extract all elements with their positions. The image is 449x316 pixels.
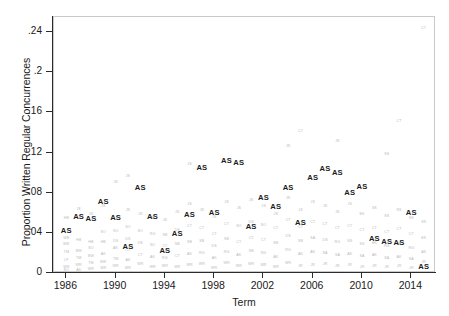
data-point-label: AS	[357, 183, 368, 191]
data-point-label: AK	[273, 256, 278, 260]
y-tick-mark	[46, 111, 52, 112]
data-point-label: AS	[394, 239, 405, 247]
y-tick-label: .12	[4, 147, 42, 157]
data-point-label: WR	[88, 268, 94, 272]
data-point-label: SB	[273, 242, 278, 246]
data-point-label: WR	[285, 262, 291, 266]
data-point-label: JS	[138, 213, 142, 217]
data-point-label: JR	[397, 265, 402, 269]
data-point-label: AK	[125, 259, 130, 263]
data-point-label: AK	[101, 253, 106, 257]
y-tick-mark	[46, 232, 52, 233]
x-tick-label: 2002	[237, 280, 287, 291]
data-point-label: JS	[113, 181, 117, 185]
data-point-label: CT	[286, 219, 291, 223]
x-tick-mark	[312, 273, 313, 278]
data-point-label: JS	[126, 209, 130, 213]
data-point-label: SB	[224, 238, 229, 242]
data-point-label: JS	[335, 141, 339, 145]
data-point-label: WB	[63, 237, 69, 241]
data-point-label: CT	[273, 227, 278, 231]
data-point-label: CT	[347, 225, 352, 229]
y-tick-label: 0	[4, 267, 42, 277]
data-point-label: BW	[88, 255, 94, 259]
data-point-label: JS	[286, 197, 290, 201]
data-point-label: CT	[212, 233, 217, 237]
data-point-label: SS	[372, 207, 377, 211]
data-point-label: AK	[150, 256, 155, 260]
data-point-label: CT	[397, 228, 402, 232]
data-point-label: WR	[100, 267, 106, 271]
data-point-label: CT	[310, 221, 315, 225]
y-tick-mark	[46, 152, 52, 153]
data-point-label: CT	[323, 223, 328, 227]
data-point-label: SA	[360, 255, 365, 259]
data-point-label: AS	[344, 189, 355, 197]
x-tick-mark	[164, 273, 165, 278]
data-point-label: AS	[122, 243, 133, 251]
data-point-label: CT	[175, 255, 180, 259]
data-point-label: AS	[381, 238, 392, 246]
data-point-label: JS	[274, 213, 278, 217]
data-point-label: AS	[283, 184, 294, 192]
data-point-label: AK	[372, 254, 377, 258]
x-tick-mark	[410, 273, 411, 278]
data-point-label: JS	[187, 203, 191, 207]
x-tick-label: 2010	[336, 280, 386, 291]
data-point-label: WR	[223, 262, 229, 266]
data-point-label: AS	[307, 174, 318, 182]
x-tick-mark	[262, 273, 263, 278]
data-point-label: SA	[335, 254, 340, 258]
data-point-label: AS	[221, 157, 232, 165]
data-point-label: AS	[73, 213, 84, 221]
x-tick-mark	[361, 273, 362, 278]
data-point-label: SO	[150, 244, 155, 248]
data-point-label: JR	[384, 266, 389, 270]
data-point-label: SO	[261, 224, 266, 228]
x-tick-mark	[115, 273, 116, 278]
data-point-label: HB	[76, 239, 81, 243]
data-point-label: JR	[323, 263, 328, 267]
data-point-label: SO	[101, 231, 106, 235]
data-point-label: SO	[64, 269, 69, 272]
x-axis-title: Term	[53, 296, 435, 308]
data-point-label: SS	[421, 221, 426, 225]
data-point-label: BW	[100, 261, 106, 265]
data-point-label: AS	[369, 235, 380, 243]
data-point-label: JR	[335, 265, 340, 269]
data-point-label: DS	[138, 242, 143, 246]
y-tick-label: .08	[4, 187, 42, 197]
y-tick-label: .16	[4, 106, 42, 116]
data-point-label: JR	[409, 267, 414, 271]
data-point-label: SO	[88, 247, 93, 251]
data-point-label: SA	[310, 237, 315, 241]
data-point-label: DS	[212, 245, 217, 249]
data-point-label: AS	[85, 215, 96, 223]
data-point-label: JS	[249, 199, 253, 203]
data-point-label: WR	[186, 264, 192, 268]
data-point-label: CT	[199, 227, 204, 231]
data-point-label: SO	[113, 230, 118, 234]
data-point-label: AS	[406, 209, 417, 217]
x-tick-label: 1990	[90, 280, 140, 291]
data-point-label: RG	[335, 241, 341, 245]
data-point-label: HB	[64, 217, 69, 221]
data-point-label: JS	[175, 211, 179, 215]
data-point-label: AS	[196, 164, 207, 172]
data-point-label: JS	[348, 203, 352, 207]
data-point-label: CT	[409, 233, 414, 237]
data-point-label: BW	[63, 243, 69, 247]
x-tick-label: 2006	[287, 280, 337, 291]
data-point-label: AK	[113, 247, 118, 251]
data-point-label: WR	[149, 266, 155, 270]
data-point-label: SB	[175, 243, 180, 247]
data-point-label: AS	[147, 213, 158, 221]
data-point-label: AS	[61, 227, 72, 235]
data-point-label: JS	[323, 205, 327, 209]
data-point-label: BW	[76, 250, 82, 254]
data-point-label: RG	[261, 252, 267, 256]
data-point-label: CT	[224, 223, 229, 227]
data-point-label: CT	[236, 241, 241, 245]
data-point-label: SO	[236, 225, 241, 229]
data-point-label: AS	[184, 211, 195, 219]
